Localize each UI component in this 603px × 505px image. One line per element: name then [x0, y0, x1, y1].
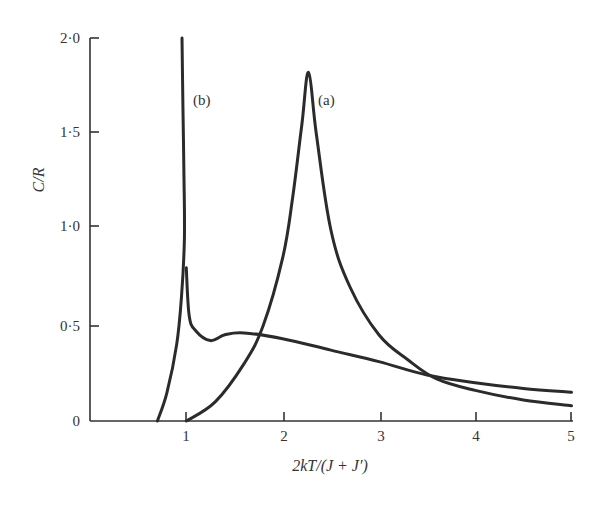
curve-label-a: (a): [318, 92, 335, 109]
chart: 2·0 1·5 1·0 0·5 0 1 2 3 4 5 2kT/(J + J′)…: [0, 0, 603, 505]
x-axis-title: 2kT/(J + J′): [292, 457, 368, 475]
x-tick-label: 5: [567, 428, 575, 444]
curve-b-branch-1: [157, 38, 184, 421]
y-tick-label: 1·5: [60, 124, 80, 140]
curves: [157, 38, 571, 421]
x-tick-label: 1: [182, 428, 190, 444]
x-tick-label: 3: [377, 428, 385, 444]
y-tick-label: 0·5: [60, 318, 80, 334]
curve-b-branch-2: [186, 268, 571, 393]
y-axis-title: C/R: [30, 167, 47, 192]
x-tick-label: 2: [280, 428, 288, 444]
y-tick-label: 1·0: [60, 218, 80, 234]
y-tick-label: 0: [73, 413, 81, 429]
curve-label-b: (b): [193, 92, 211, 109]
y-tick-label: 2·0: [60, 30, 80, 46]
x-tick-label: 4: [472, 428, 480, 444]
curve-a: [186, 72, 571, 421]
